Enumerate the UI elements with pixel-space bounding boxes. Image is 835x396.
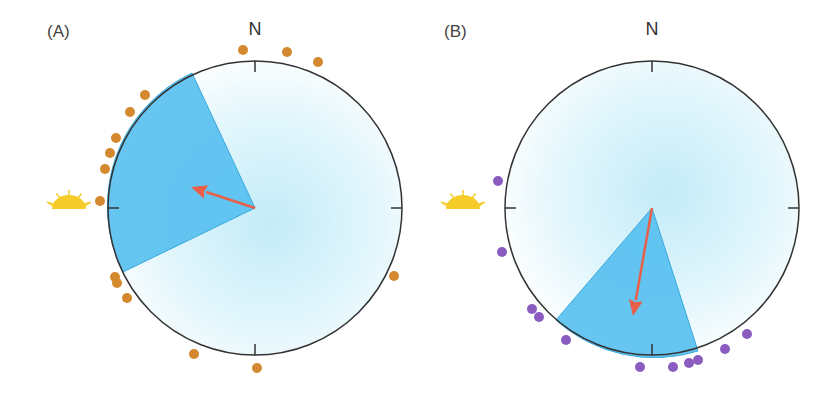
observation-dot	[561, 335, 571, 345]
panel-b: (B) N	[441, 19, 799, 372]
panel-a: (A) N	[47, 19, 402, 373]
panel-label: (B)	[444, 22, 467, 41]
observation-dot	[125, 107, 135, 117]
observation-dot	[282, 47, 292, 57]
observation-dot	[252, 363, 262, 373]
observation-dot	[742, 329, 752, 339]
north-label: N	[646, 19, 659, 39]
sun-icon	[441, 190, 485, 209]
observation-dot	[389, 271, 399, 281]
observation-dot	[100, 164, 110, 174]
observation-dot	[668, 362, 678, 372]
observation-dot	[527, 304, 537, 314]
observation-dot	[111, 133, 121, 143]
observation-dot	[684, 358, 694, 368]
observation-dot	[693, 355, 703, 365]
observation-dot	[635, 362, 645, 372]
sun-icon	[47, 190, 91, 209]
orientation-diagram: (A) N (B) N	[0, 0, 835, 396]
north-label: N	[249, 19, 262, 39]
observation-dot	[112, 278, 122, 288]
panel-label: (A)	[47, 22, 70, 41]
observation-dot	[238, 45, 248, 55]
observation-dot	[140, 90, 150, 100]
observation-dot	[105, 148, 115, 158]
observation-dot	[95, 196, 105, 206]
observation-dot	[497, 247, 507, 257]
observation-dot	[534, 312, 544, 322]
observation-dot	[122, 293, 132, 303]
observation-dot	[189, 349, 199, 359]
observation-dot	[720, 344, 730, 354]
observation-dot	[313, 57, 323, 67]
observation-dot	[493, 176, 503, 186]
